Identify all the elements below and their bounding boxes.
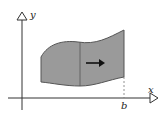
shaded-region	[41, 30, 124, 86]
x-axis-label: x	[148, 84, 154, 95]
y-axis-label: y	[29, 9, 36, 20]
diagram-canvas: y x b	[0, 0, 162, 116]
b-label: b	[121, 100, 127, 111]
y-axis-arrowhead-icon	[17, 12, 27, 20]
